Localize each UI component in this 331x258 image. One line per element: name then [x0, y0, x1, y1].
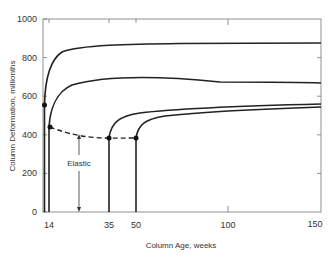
svg-text:0: 0 [32, 207, 37, 217]
deformation-chart: 0 200 400 600 800 1000 14 35 50 100 150 … [0, 0, 331, 258]
curve-series-1 [45, 43, 322, 212]
svg-text:600: 600 [22, 91, 37, 101]
curve-series-3 [109, 104, 321, 212]
svg-text:200: 200 [22, 168, 37, 178]
svg-text:1000: 1000 [17, 14, 37, 24]
elastic-annotation: Elastic [67, 134, 91, 212]
y-axis-title: Column Deformation, millionths [8, 60, 17, 171]
curve-series-2 [49, 78, 321, 212]
marker-week-14 [48, 125, 53, 130]
elastic-label: Elastic [67, 159, 91, 168]
svg-text:14: 14 [44, 220, 54, 230]
svg-text:35: 35 [104, 220, 114, 230]
svg-text:150: 150 [307, 219, 322, 229]
curves [45, 43, 322, 212]
svg-text:100: 100 [220, 220, 235, 230]
x-tick-labels: 14 35 50 100 150 [44, 219, 323, 230]
y-tick-labels: 0 200 400 600 800 1000 [17, 14, 37, 217]
svg-text:400: 400 [22, 130, 37, 140]
markers [42, 103, 139, 141]
svg-text:50: 50 [131, 220, 141, 230]
elastic-dashed-curve [50, 127, 136, 138]
curve-series-4 [136, 107, 321, 212]
marker-week-50 [134, 136, 139, 141]
x-axis-title: Column Age, weeks [146, 241, 217, 250]
marker-week-35 [107, 136, 112, 141]
svg-text:800: 800 [22, 53, 37, 63]
marker-week-7 [42, 103, 47, 108]
